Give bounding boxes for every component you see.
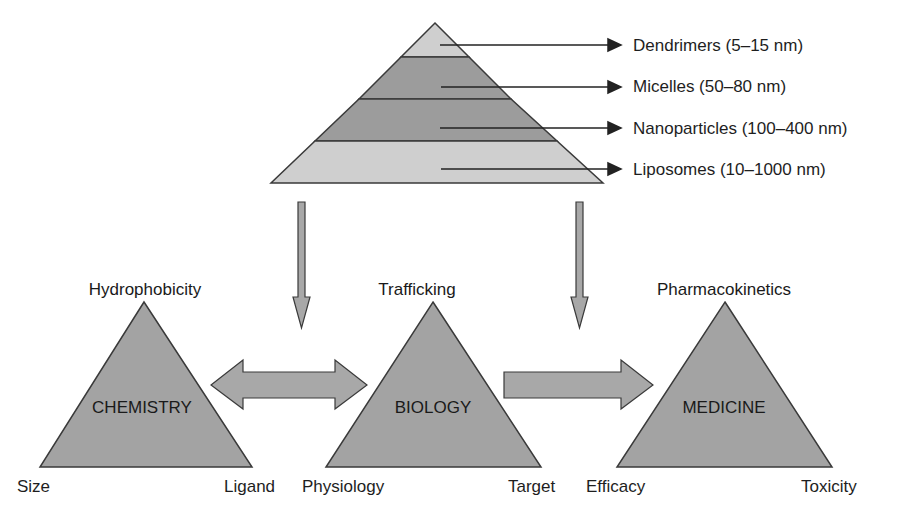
down-arrow-left [293,202,310,328]
label-size: Size [17,478,50,495]
label-liposomes: Liposomes (10–1000 nm) [633,161,826,178]
label-nanoparticles: Nanoparticles (100–400 nm) [633,120,848,137]
label-dendrimers: Dendrimers (5–15 nm) [633,37,803,54]
pyramid-layer-dendrimers [401,23,469,57]
label-hydrophobicity: Hydrophobicity [89,281,201,298]
label-chemistry: CHEMISTRY [92,399,192,416]
label-target: Target [508,478,555,495]
pyramid-layer-liposomes [271,141,603,183]
label-pharmacokinetics: Pharmacokinetics [657,281,791,298]
double-arrow-chemistry-biology [211,360,367,409]
label-micelles: Micelles (50–80 nm) [633,78,786,95]
label-physiology: Physiology [302,478,384,495]
label-ligand: Ligand [224,478,275,495]
label-efficacy: Efficacy [586,478,645,495]
pyramid-layer-micelles [359,57,511,99]
label-biology: BIOLOGY [395,399,472,416]
label-toxicity: Toxicity [801,478,857,495]
label-medicine: MEDICINE [682,399,765,416]
arrow-biology-medicine [504,360,653,409]
label-trafficking: Trafficking [378,281,455,298]
down-arrow-right [571,202,588,328]
pyramid-layer-nanoparticles [315,99,557,141]
